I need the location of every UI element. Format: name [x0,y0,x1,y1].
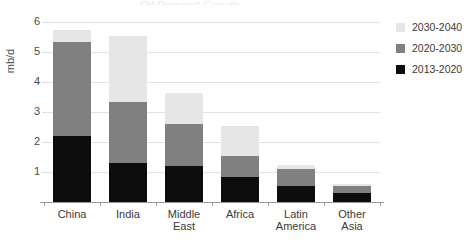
gridline [44,52,380,53]
legend-label: 2020-2030 [412,43,462,54]
bar-segment-2013-2020[interactable] [277,186,315,203]
bar-segment-2013-2020[interactable] [165,166,203,202]
y-tick-label: 2 [26,136,40,147]
x-tick-label: India [99,208,157,220]
x-tick-label-line: China [43,208,101,220]
bar-segment-2020-2030[interactable] [277,169,315,186]
bar-segment-2030-2040[interactable] [333,184,371,186]
stacked-bar-chart: Oil Demand Growth mb/d 123456 2030-20402… [0,0,467,242]
gridline [44,142,380,143]
bar-segment-2013-2020[interactable] [109,163,147,202]
gridline [44,22,380,23]
x-tick-label-line: Africa [211,208,269,220]
legend-label: 2013-2020 [412,64,462,75]
gridline [44,172,380,173]
bar-africa[interactable] [221,22,259,202]
bar-segment-2030-2040[interactable] [165,93,203,125]
x-tick-label-line: East [155,220,213,232]
x-tick-label: Africa [211,208,269,220]
x-tick-label: MiddleEast [155,208,213,232]
plot-area [44,22,380,202]
y-tick-label: 4 [26,76,40,87]
bar-segment-2020-2030[interactable] [53,42,91,137]
legend-item-2020-2030[interactable]: 2020-2030 [396,38,466,59]
legend-swatch-icon [396,65,405,74]
bar-segment-2030-2040[interactable] [109,36,147,102]
x-tick-label-line: India [99,208,157,220]
x-tick-mark [324,202,325,206]
y-tick-label: 5 [26,46,40,57]
y-tick-label: 3 [26,106,40,117]
x-tick-label-line: Other [323,208,381,220]
x-tick-label-line: America [267,220,325,232]
bar-segment-2020-2030[interactable] [221,156,259,177]
x-tick-mark [212,202,213,206]
legend-swatch-icon [396,44,405,53]
x-tick-label: China [43,208,101,220]
bar-latin-america[interactable] [277,22,315,202]
x-tick-label: OtherAsia [323,208,381,232]
y-axis-title: mb/d [4,38,16,84]
bar-segment-2020-2030[interactable] [165,124,203,166]
legend-item-2030-2040[interactable]: 2030-2040 [396,17,466,38]
x-tick-mark [380,202,381,206]
y-tick-label: 6 [26,16,40,27]
bar-segment-2013-2020[interactable] [221,177,259,203]
x-tick-mark [156,202,157,206]
bar-india[interactable] [109,22,147,202]
legend-swatch-icon [396,23,405,32]
bar-middle-east[interactable] [165,22,203,202]
chart-legend: 2030-20402020-20302013-2020 [396,17,466,80]
y-axis-ticks: 123456 [22,22,40,202]
x-tick-label: LatinAmerica [267,208,325,232]
legend-item-2013-2020[interactable]: 2013-2020 [396,59,466,80]
legend-label: 2030-2040 [412,22,462,33]
bar-segment-2013-2020[interactable] [53,136,91,202]
x-tick-mark [100,202,101,206]
bar-segment-2020-2030[interactable] [333,186,371,194]
x-tick-label-line: Middle [155,208,213,220]
gridline [44,112,380,113]
bar-segment-2030-2040[interactable] [53,30,91,42]
bar-segment-2030-2040[interactable] [277,165,315,170]
bar-segment-2030-2040[interactable] [221,126,259,156]
x-tick-label-line: Latin [267,208,325,220]
x-tick-mark [268,202,269,206]
bar-segment-2020-2030[interactable] [109,102,147,164]
bar-china[interactable] [53,22,91,202]
y-tick-label: 1 [26,166,40,177]
bar-segment-2013-2020[interactable] [333,193,371,202]
gridline [44,82,380,83]
x-tick-mark [44,202,45,206]
bar-other-asia[interactable] [333,22,371,202]
chart-title: Oil Demand Growth [95,0,285,5]
x-tick-label-line: Asia [323,220,381,232]
